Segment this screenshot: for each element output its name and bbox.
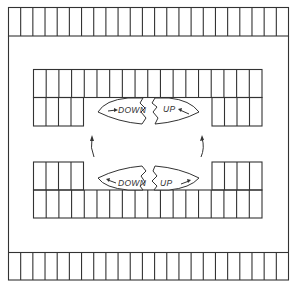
inner-block-bottom	[34, 162, 263, 218]
ramp-top-up: UP	[152, 98, 199, 124]
bottom-stall-row	[9, 253, 289, 281]
ramp-bottom-up: UP	[152, 166, 199, 190]
ramp-label: UP	[160, 178, 172, 188]
inner-block-top	[34, 70, 263, 127]
outer-walls	[9, 36, 289, 252]
ramp-label: UP	[163, 104, 175, 114]
flow-arrow-right	[200, 135, 204, 157]
ramp-bottom-down: DOWN	[98, 166, 147, 190]
flow-arrow-left	[90, 135, 94, 157]
ramp-label: DOWN	[118, 178, 147, 188]
parking-diagram: DOWN UP DOWN UP	[0, 0, 291, 283]
ramp-label: DOWN	[118, 105, 147, 115]
top-stall-row	[9, 8, 289, 37]
ramp-top-down: DOWN	[98, 98, 147, 124]
